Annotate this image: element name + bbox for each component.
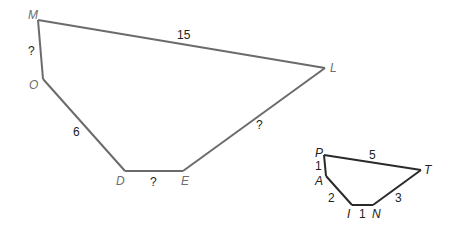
side-AP — [324, 155, 326, 176]
side-DO — [43, 79, 125, 171]
vertex-label-L: L — [330, 61, 337, 75]
vertex-label-T: T — [424, 163, 433, 177]
vertex-label-E: E — [181, 174, 190, 188]
vertex-label-O: O — [29, 78, 38, 92]
vertex-label-A: A — [314, 174, 323, 188]
side-label-AP: 1 — [315, 159, 322, 173]
side-label-TN: 3 — [395, 191, 402, 205]
vertex-label-I: I — [347, 207, 351, 221]
side-label-PT: 5 — [369, 148, 376, 162]
vertex-label-N: N — [372, 207, 381, 221]
vertex-label-M: M — [28, 8, 38, 22]
side-LE — [183, 68, 325, 171]
large-polygon: M L E D O 15 ? ? 6 ? — [28, 8, 337, 189]
side-label-ML: 15 — [177, 28, 191, 42]
side-label-OM: ? — [28, 44, 35, 58]
side-label-LE: ? — [256, 118, 263, 132]
vertex-label-P: P — [315, 146, 323, 160]
side-label-ED: ? — [150, 175, 157, 189]
small-polygon: P T N I A 5 3 1 2 1 — [314, 146, 433, 221]
side-label-DO: 6 — [73, 125, 80, 139]
side-label-NI: 1 — [359, 207, 366, 221]
similar-polygons-figure: M L E D O 15 ? ? 6 ? P T N I A 5 3 1 2 1 — [0, 0, 453, 235]
side-label-IA: 2 — [328, 191, 335, 205]
vertex-label-D: D — [116, 174, 125, 188]
side-OM — [38, 20, 43, 79]
